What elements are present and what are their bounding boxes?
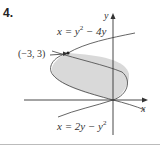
label-top-curve: x = y2 − 4y bbox=[57, 24, 107, 37]
label-top-rhs: − 4y bbox=[83, 25, 106, 37]
label-bottom-curve: x = 2y − y2 bbox=[57, 119, 107, 132]
label-top-lhs: x = y bbox=[57, 25, 80, 37]
x-axis-label: x bbox=[141, 103, 145, 114]
point-label: (−3, 3) bbox=[18, 48, 45, 59]
y-axis-arrow-icon bbox=[111, 13, 116, 19]
bottom-rule bbox=[0, 144, 160, 145]
point-marker bbox=[66, 51, 69, 54]
figure: 4. y x x = y2 − 4y (−3, 3) x = 2y − y2 bbox=[0, 0, 160, 154]
x-axis-arrow-icon bbox=[142, 98, 148, 103]
label-bottom-exp: 2 bbox=[103, 119, 107, 127]
label-bottom-lhs: x = 2y − y bbox=[57, 120, 103, 132]
shaded-region bbox=[52, 53, 129, 100]
y-axis-label: y bbox=[104, 10, 108, 21]
